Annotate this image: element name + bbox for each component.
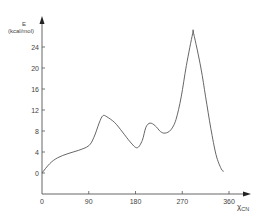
y-tick-label: 24 bbox=[31, 44, 39, 51]
axes bbox=[42, 22, 245, 194]
x-ticks: 090180270360 bbox=[40, 191, 235, 205]
x-axis-label: χCN bbox=[237, 202, 249, 212]
y-axis-arrow-icon bbox=[40, 16, 45, 24]
x-axis-label-sub: CN bbox=[241, 206, 249, 212]
x-tick-label: 90 bbox=[85, 198, 93, 205]
x-tick-label: 270 bbox=[176, 198, 188, 205]
y-tick-label: 16 bbox=[31, 86, 39, 93]
y-tick-label: 12 bbox=[31, 107, 39, 114]
y-tick-label: 4 bbox=[35, 149, 39, 156]
x-tick-label: 360 bbox=[223, 198, 235, 205]
y-tick-label: 8 bbox=[35, 128, 39, 135]
y-tick-label: 0 bbox=[35, 170, 39, 177]
energy-curve bbox=[42, 30, 224, 173]
y-axis-label-unit: (kcal/mol) bbox=[8, 28, 34, 34]
energy-profile-chart: 04812162024 090180270360 E (kcal/mol) χC… bbox=[0, 0, 262, 216]
x-axis-arrow-icon bbox=[243, 192, 251, 197]
x-tick-label: 0 bbox=[40, 198, 44, 205]
x-tick-label: 180 bbox=[130, 198, 142, 205]
y-axis-label-symbol: E bbox=[22, 21, 26, 27]
y-tick-label: 20 bbox=[31, 65, 39, 72]
y-ticks: 04812162024 bbox=[31, 44, 45, 177]
